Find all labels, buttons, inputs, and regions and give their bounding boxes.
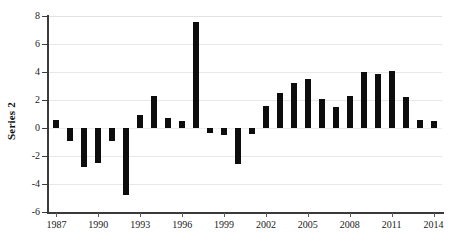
gridline: [48, 44, 442, 45]
bar: [347, 96, 353, 128]
bar: [193, 22, 199, 128]
x-axis-tick-label: 1996: [162, 219, 202, 230]
bar: [305, 79, 311, 128]
bar: [375, 74, 381, 128]
x-axis-tick: [350, 213, 351, 217]
x-axis-tick-label: 2002: [246, 219, 286, 230]
bar: [137, 115, 143, 128]
x-axis-tick-label: 1999: [204, 219, 244, 230]
bar: [221, 128, 227, 135]
y-axis-tick: [42, 72, 47, 73]
gridline: [48, 184, 442, 185]
y-axis-tick-label: 8: [14, 11, 40, 21]
y-axis-tick: [42, 212, 47, 213]
x-axis-tick: [140, 213, 141, 217]
x-axis-tick-label: 1990: [78, 219, 118, 230]
gridline: [48, 128, 442, 129]
y-axis-tick: [42, 100, 47, 101]
bar: [319, 99, 325, 128]
y-axis-line: [47, 15, 49, 213]
y-axis-tick-label: 6: [14, 39, 40, 49]
gridline: [48, 156, 442, 157]
bar: [417, 120, 423, 128]
y-axis-tick-label: -4: [14, 179, 40, 189]
bar: [277, 93, 283, 128]
bar: [361, 72, 367, 128]
y-axis-tick-label: -2: [14, 151, 40, 161]
x-axis-tick-label: 1993: [120, 219, 160, 230]
gridline: [48, 100, 442, 101]
bar: [151, 96, 157, 128]
bar: [403, 97, 409, 128]
bar: [109, 128, 115, 141]
bar: [95, 128, 101, 163]
bar: [389, 71, 395, 128]
plot-area: [48, 16, 442, 212]
bar-chart: Series 2 86420-2-4-6 1987199019931996199…: [0, 0, 456, 242]
x-axis-tick: [434, 213, 435, 217]
gridline: [48, 72, 442, 73]
x-axis-tick: [56, 213, 57, 217]
bar: [249, 128, 255, 134]
x-axis-tick-label: 2014: [414, 219, 454, 230]
x-axis-tick-label: 2005: [288, 219, 328, 230]
y-axis-tick-label: 4: [14, 67, 40, 77]
x-axis-tick: [266, 213, 267, 217]
bar: [235, 128, 241, 164]
y-axis-tick-labels: 86420-2-4-6: [8, 0, 40, 242]
x-axis-tick: [182, 213, 183, 217]
bar: [431, 121, 437, 128]
y-axis-tick-label: -6: [14, 207, 40, 217]
gridline: [48, 16, 442, 17]
y-axis-tick: [42, 44, 47, 45]
bar: [333, 107, 339, 128]
x-axis-tick: [224, 213, 225, 217]
x-axis-tick-label: 2011: [372, 219, 412, 230]
bar: [67, 128, 73, 141]
x-axis-line: [47, 212, 444, 214]
y-axis-tick-label: 0: [14, 123, 40, 133]
bar: [207, 128, 213, 133]
y-axis-tick: [42, 156, 47, 157]
x-axis-tick-label: 1987: [36, 219, 76, 230]
bar: [165, 118, 171, 128]
bar: [291, 83, 297, 128]
bar: [179, 121, 185, 128]
bar: [263, 106, 269, 128]
bar: [123, 128, 129, 195]
y-axis-tick-label: 2: [14, 95, 40, 105]
bar: [53, 120, 59, 128]
y-axis-tick: [42, 128, 47, 129]
bar: [81, 128, 87, 167]
x-axis-tick: [308, 213, 309, 217]
x-axis-tick-label: 2008: [330, 219, 370, 230]
y-axis-tick: [42, 16, 47, 17]
x-axis-tick: [392, 213, 393, 217]
y-axis-tick: [42, 184, 47, 185]
x-axis-tick: [98, 213, 99, 217]
